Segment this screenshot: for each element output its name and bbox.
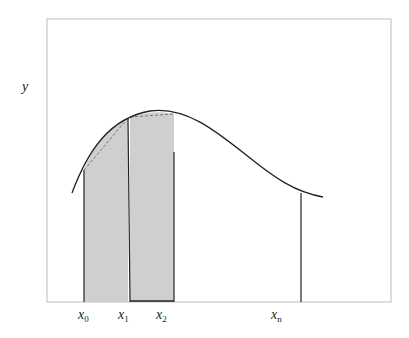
x-label-1: x1 xyxy=(118,308,129,324)
vertical-x1 xyxy=(128,118,130,302)
y-axis-label: y xyxy=(22,80,28,94)
x-label-2: x2 xyxy=(156,308,167,324)
shaded-strip-2 xyxy=(130,112,174,302)
diagram-canvas xyxy=(0,0,409,338)
shaded-strip-1 xyxy=(84,118,128,302)
x-label-0: x0 xyxy=(78,308,89,324)
x-label-n: xn xyxy=(271,308,282,324)
trapezoid-rule-diagram: y x0 x1 x2 xn xyxy=(0,0,409,338)
